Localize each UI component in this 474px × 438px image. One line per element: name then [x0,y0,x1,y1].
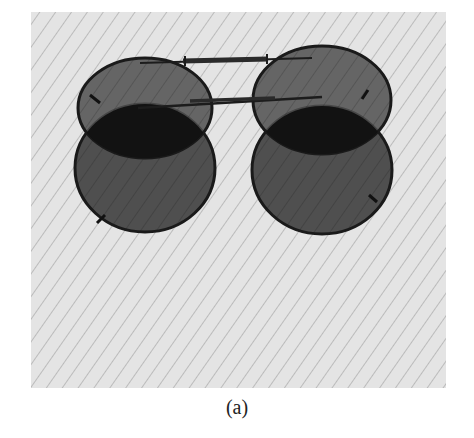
photo-polarized-lenses [31,12,446,388]
figure-caption: (a) [0,396,474,419]
left-lens-pair [75,58,215,232]
right-lens-pair [252,46,392,234]
top-bridge-spring [183,59,268,61]
